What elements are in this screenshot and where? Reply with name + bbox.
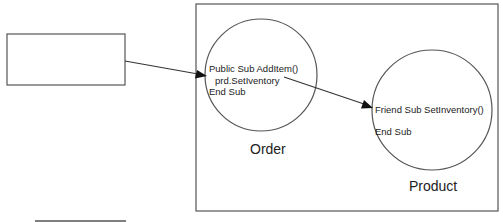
product-code-line-3: End Sub (375, 126, 411, 137)
arrow-head-icon (361, 100, 373, 109)
external-caller-box (7, 34, 125, 85)
order-code-line-3: End Sub (209, 86, 245, 97)
connector-external-to-order (125, 61, 207, 79)
order-code-line-2: prd.SetIventory (215, 75, 280, 86)
order-code-line-1: Public Sub AddItem() (209, 63, 298, 74)
product-object: Friend Sub SetInventory() End Sub Produc… (372, 50, 492, 194)
connector-line (125, 61, 198, 74)
order-object: Public Sub AddItem() prd.SetIventory End… (205, 19, 317, 157)
product-label: Product (409, 178, 457, 194)
connector-order-to-product (284, 77, 373, 109)
order-label: Order (250, 141, 286, 157)
connector-line (284, 77, 364, 104)
collaboration-diagram: Public Sub AddItem() prd.SetIventory End… (0, 0, 503, 222)
product-code-line-1: Friend Sub SetInventory() (375, 104, 484, 115)
